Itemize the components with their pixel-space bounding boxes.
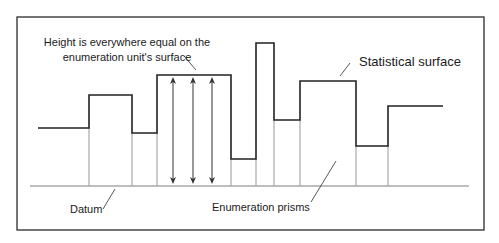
height-note-line2: enumeration unit's surface	[63, 51, 192, 63]
datum-label: Datum	[70, 203, 102, 215]
statistical-surface-label: Statistical surface	[359, 54, 461, 69]
enumeration-prism-walls	[89, 120, 388, 186]
leader-enumeration-prisms	[311, 161, 336, 202]
height-note-line1: Height is everywhere equal on the	[44, 36, 210, 48]
height-arrows	[170, 77, 215, 184]
leader-datum	[103, 189, 115, 209]
diagram-frame	[17, 17, 484, 230]
leader-statistical-surface	[340, 63, 350, 76]
prism-map-diagram: Height is everywhere equal on the enumer…	[0, 0, 499, 243]
enumeration-prisms-label: Enumeration prisms	[212, 201, 310, 213]
